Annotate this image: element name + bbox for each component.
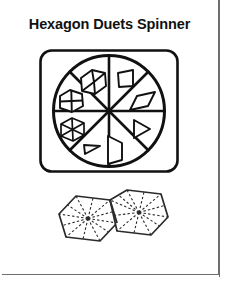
worksheet-page: Hexagon Duets Spinner [0,0,235,306]
hexagon-duet-svg [55,192,183,272]
spinner-svg [38,48,180,174]
page-title: Hexagon Duets Spinner [0,16,219,32]
hexagon-duet-container [55,192,183,272]
sector-shape-hexagon-six-spokes [61,118,84,141]
spinner-container [38,48,180,174]
sector-shape-hexagon-with-cross [60,90,83,112]
sector-shape-small-trapezoid [118,70,133,87]
hexagon-left [59,196,117,241]
hexagon-right [110,190,168,235]
page-border-right [219,0,220,277]
